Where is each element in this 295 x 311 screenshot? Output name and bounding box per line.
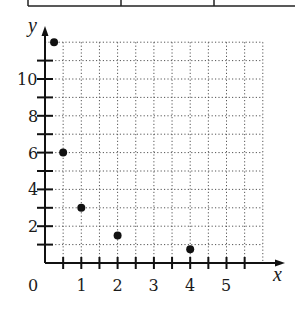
y-tick-label-2: 2: [28, 217, 38, 236]
y-tick-label-8: 8: [28, 107, 38, 126]
ticks: [37, 61, 245, 269]
y-tick-label-4: 4: [28, 180, 38, 199]
origin-label: 0: [28, 276, 38, 295]
x-axis-label: x: [272, 263, 282, 285]
data-points: [50, 38, 194, 253]
x-tick-label-5: 5: [221, 276, 231, 295]
data-point: [114, 231, 122, 239]
x-tick-label-1: 1: [77, 276, 87, 295]
y-tick-label-10: 10: [17, 70, 37, 89]
x-tick-label-3: 3: [149, 276, 159, 295]
y-axis-arrow-icon: [42, 26, 49, 36]
chart-canvas: y x 0 1 2 3 4 5 2 4 6 8 10: [0, 0, 295, 311]
table-border-remnant: [28, 0, 295, 6]
y-axis-label: y: [26, 14, 37, 37]
grid: [45, 42, 263, 263]
x-tick-label-2: 2: [113, 276, 123, 295]
data-point: [186, 245, 194, 253]
y-tick-label-6: 6: [28, 144, 38, 163]
x-tick-label-4: 4: [185, 276, 195, 295]
data-point: [59, 149, 67, 157]
data-point: [50, 38, 58, 46]
data-point: [77, 204, 85, 212]
axes: [42, 26, 286, 267]
